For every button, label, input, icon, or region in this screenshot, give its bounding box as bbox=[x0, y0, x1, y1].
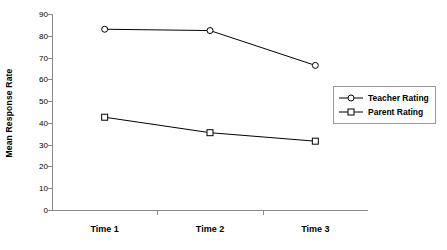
legend-label: Teacher Rating bbox=[368, 93, 429, 103]
y-tick-label: 20 bbox=[39, 162, 48, 171]
y-tick-label: 50 bbox=[39, 97, 48, 106]
data-point-square-marker bbox=[207, 130, 213, 136]
series-line bbox=[105, 29, 316, 65]
y-tick-label: 40 bbox=[39, 118, 48, 127]
series-plot bbox=[52, 14, 368, 210]
legend-label: Parent Rating bbox=[368, 107, 423, 117]
data-point-circle-marker bbox=[102, 26, 108, 32]
data-point-circle-marker bbox=[312, 62, 318, 68]
y-tick-label: 70 bbox=[39, 53, 48, 62]
legend-item: Teacher Rating bbox=[338, 91, 429, 105]
x-tick-mark bbox=[157, 210, 158, 215]
x-tick-label: Time 3 bbox=[301, 224, 329, 234]
data-point-square-marker bbox=[102, 114, 108, 120]
legend: Teacher RatingParent Rating bbox=[333, 86, 436, 124]
series-teacher-rating bbox=[102, 26, 319, 68]
y-tick-label: 80 bbox=[39, 31, 48, 40]
data-point-square-marker bbox=[312, 138, 318, 144]
y-axis-tick-labels: 0102030405060708090 bbox=[22, 14, 48, 210]
x-tick-mark bbox=[263, 210, 264, 215]
line-chart: Mean Response Rate 0102030405060708090 T… bbox=[0, 0, 447, 250]
x-axis-line bbox=[52, 210, 368, 211]
y-axis-title: Mean Response Rate bbox=[0, 0, 18, 225]
series-parent-rating bbox=[102, 114, 319, 144]
y-axis-title-text: Mean Response Rate bbox=[4, 68, 14, 157]
legend-circle-icon bbox=[338, 92, 364, 104]
plot-area bbox=[52, 14, 368, 210]
y-tick-mark bbox=[48, 210, 52, 211]
y-tick-label: 60 bbox=[39, 75, 48, 84]
data-point-circle-marker bbox=[207, 28, 213, 34]
x-axis-tick-labels: Time 1Time 2Time 3 bbox=[52, 224, 368, 242]
legend-item: Parent Rating bbox=[338, 105, 429, 119]
x-tick-label: Time 2 bbox=[196, 224, 224, 234]
x-tick-label: Time 1 bbox=[90, 224, 118, 234]
legend-square-icon bbox=[338, 106, 364, 118]
y-tick-label: 30 bbox=[39, 140, 48, 149]
y-tick-label: 10 bbox=[39, 184, 48, 193]
y-tick-label: 90 bbox=[39, 10, 48, 19]
